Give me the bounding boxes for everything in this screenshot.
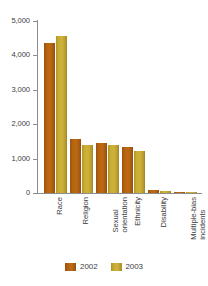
x-axis-label: Race <box>56 197 65 215</box>
legend-item-2003[interactable]: 2003 <box>111 262 143 271</box>
y-axis-tick-label: 4,000 <box>0 50 30 59</box>
bar-2002[interactable] <box>148 190 159 193</box>
x-axis-label: Multiple-biasincidents <box>190 197 207 240</box>
bar-group <box>174 21 197 193</box>
bar-group <box>44 21 67 193</box>
x-axis-label-line: Race <box>55 197 64 215</box>
x-axis-label-line: Multiple-bias <box>189 197 198 240</box>
bar-2002[interactable] <box>96 143 107 193</box>
bar-2003[interactable] <box>56 36 67 193</box>
x-axis-label: Sexualorientation <box>112 197 129 232</box>
y-axis-tick-label: 2,000 <box>0 119 30 128</box>
x-axis-line <box>37 193 202 194</box>
bar-2002[interactable] <box>70 139 81 193</box>
bar-2002[interactable] <box>122 147 133 193</box>
legend-item-2002[interactable]: 2002 <box>65 262 97 271</box>
y-axis-tick-mark <box>33 193 38 194</box>
y-axis-tick-label: 3,000 <box>0 85 30 94</box>
legend-swatch-2003-icon <box>111 263 122 271</box>
bar-2002[interactable] <box>44 43 55 193</box>
bar-2003[interactable] <box>82 145 93 193</box>
bar-2003[interactable] <box>108 145 119 193</box>
chart-legend: 2002 2003 <box>0 262 208 271</box>
legend-swatch-2002-icon <box>65 263 76 271</box>
y-axis-tick-label: 5,000 <box>0 16 30 25</box>
x-axis-label-line: Religion <box>81 197 90 224</box>
bar-2003[interactable] <box>134 151 145 193</box>
x-axis-label: Ethnicity <box>134 197 143 226</box>
bar-group <box>148 21 171 193</box>
bar-2003[interactable] <box>160 191 171 193</box>
y-axis-tick-label: 0 <box>0 188 30 197</box>
x-axis-label: Disability <box>160 197 169 227</box>
x-axis-label-line: incidents <box>199 197 208 240</box>
bar-group <box>122 21 145 193</box>
x-axis-label-line: Disability <box>159 197 168 227</box>
bar-chart-figure: 5,0004,0003,0002,0001,0000 RaceReligionS… <box>0 0 208 286</box>
x-axis-label-line: Ethnicity <box>133 197 142 226</box>
legend-label-2002: 2002 <box>80 262 97 271</box>
plot-area <box>38 21 202 193</box>
x-axis-label: Religion <box>82 197 91 224</box>
legend-label-2003: 2003 <box>126 262 143 271</box>
bar-group <box>96 21 119 193</box>
bar-group <box>70 21 93 193</box>
bar-2003[interactable] <box>186 192 197 193</box>
y-axis-tick-label: 1,000 <box>0 154 30 163</box>
bar-2002[interactable] <box>174 192 185 193</box>
x-axis-label-line: orientation <box>121 197 130 232</box>
x-axis-label-line: Sexual <box>111 209 120 232</box>
